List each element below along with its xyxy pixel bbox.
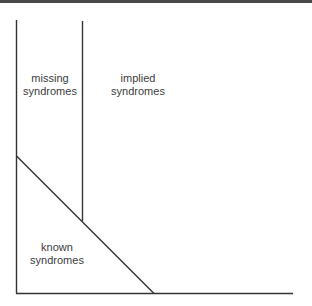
syndrome-diagram: missing syndromes implied syndromes know…: [0, 0, 312, 306]
known-label-line1: known: [23, 241, 91, 254]
missing-label-line2: syndromes: [19, 85, 81, 98]
diagonal-boundary-line: [17, 156, 155, 294]
implied-label-line1: implied: [104, 72, 172, 85]
implied-label-line2: syndromes: [104, 85, 172, 98]
implied-syndromes-label: implied syndromes: [104, 72, 172, 98]
known-label-line2: syndromes: [23, 254, 91, 267]
missing-label-line1: missing: [19, 72, 81, 85]
missing-syndromes-label: missing syndromes: [19, 72, 81, 98]
known-syndromes-label: known syndromes: [23, 241, 91, 267]
